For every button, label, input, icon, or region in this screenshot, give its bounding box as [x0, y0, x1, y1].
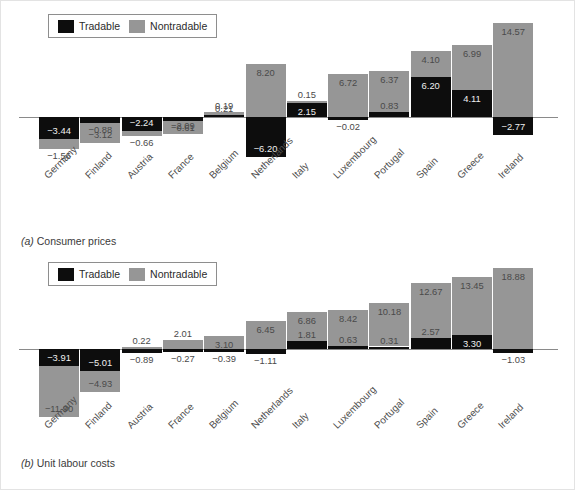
bar-value-label: 14.57 [482, 26, 544, 37]
caption-text-a: Consumer prices [37, 235, 116, 247]
bar-value-label: 18.88 [482, 271, 544, 282]
bar-segment-tradable [328, 346, 368, 349]
bar-segment-tradable [204, 115, 244, 118]
bar-segment-nontradable [122, 347, 162, 350]
bar-value-label: −1.03 [482, 354, 544, 365]
caption-marker-b: (b) [21, 457, 34, 469]
bar-segment-tradable [369, 347, 409, 350]
caption-panel-a: (a) Consumer prices [21, 235, 116, 247]
category-axis-b: GermanyFinlandAustriaFranceBelgiumNether… [1, 419, 575, 481]
chart-panel-a: Tradable Nontradable −3.44−1.56−0.88−3.1… [1, 1, 575, 251]
bar-segment-tradable [493, 349, 533, 353]
caption-text-b: Unit labour costs [37, 457, 115, 469]
bar-segment-nontradable [287, 101, 327, 104]
bar-segment-tradable [369, 112, 409, 117]
chart-panel-b: Tradable Nontradable −3.91−11.90−5.01−4.… [1, 249, 575, 490]
bar-value-label: −2.77 [482, 121, 544, 132]
bar-segment-tradable [328, 117, 368, 120]
plot-area-a: −3.44−1.56−0.88−3.12−2.24−0.66−0.61−2.09… [1, 1, 575, 186]
bar-segment-tradable [246, 349, 286, 354]
bar-segment-nontradable [493, 23, 533, 117]
plot-area-b: −3.91−11.90−5.01−4.93−0.890.22−0.272.01−… [1, 249, 575, 431]
caption-panel-b: (b) Unit labour costs [21, 457, 115, 469]
bar-group: 2.150.15 [287, 1, 327, 186]
caption-marker-a: (a) [21, 235, 34, 247]
category-axis-a: GermanyFinlandAustriaFranceBelgiumNether… [1, 169, 575, 231]
figure-container: Tradable Nontradable −3.44−1.56−0.88−3.1… [0, 0, 575, 490]
